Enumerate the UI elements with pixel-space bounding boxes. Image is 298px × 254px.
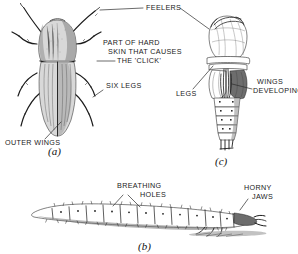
figure-letter-b: (b) (138, 240, 151, 253)
label-six-legs: SIX LEGS (106, 81, 142, 90)
label-wings-developing-line1: WINGS (257, 77, 283, 86)
figure-canvas: (a) (0, 0, 298, 254)
figure-letter-c: (c) (215, 155, 228, 168)
label-hard-skin-line2: SKIN THAT CAUSES (108, 47, 182, 56)
label-feelers: FEELERS (146, 3, 181, 12)
label-breathing-holes-line2: HOLES (140, 190, 166, 199)
beetle-life-stages-figure: (a) (0, 0, 298, 254)
label-outer-wings: OUTER WINGS (5, 138, 60, 147)
label-legs: LEGS (176, 89, 197, 98)
label-wings-developing-line2: DEVELOPING (253, 86, 298, 95)
label-hard-skin-line1: PART OF HARD (103, 38, 160, 47)
label-breathing-holes-line1: BREATHING (117, 181, 162, 190)
label-hard-skin-line3: THE 'CLICK' (117, 56, 161, 65)
label-horny-jaws-line2: JAWS (252, 192, 273, 201)
label-horny-jaws-line1: HORNY (244, 183, 272, 192)
